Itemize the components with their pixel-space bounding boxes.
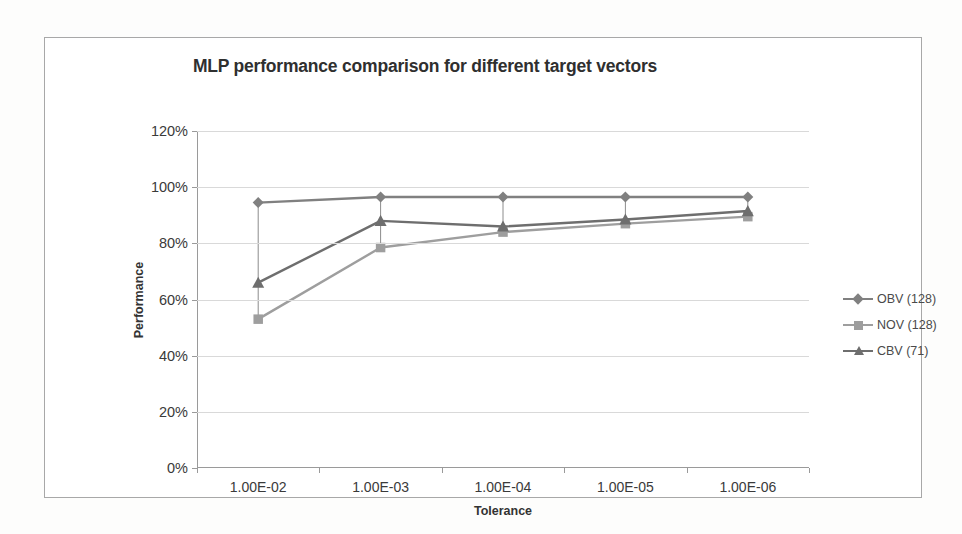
x-axis-tick — [809, 468, 810, 473]
gridline — [197, 300, 809, 301]
y-axis-tick-label: 40% — [159, 348, 188, 364]
gridline — [197, 356, 809, 357]
legend-label: CBV (71) — [877, 344, 928, 358]
legend-item-cbv[interactable]: CBV (71) — [843, 338, 962, 364]
x-axis-tick — [564, 468, 565, 473]
y-axis-tick-label: 120% — [151, 123, 188, 139]
x-axis-tick-label: 1.00E-02 — [230, 479, 287, 495]
legend-label: OBV (128) — [877, 292, 936, 306]
y-axis-tick-label: 80% — [159, 235, 188, 251]
gridline — [197, 131, 809, 132]
x-axis-tick — [319, 468, 320, 473]
plot-container: Performance Tolerance 0%20%40%60%80%100%… — [197, 131, 809, 468]
x-axis-tick-label: 1.00E-03 — [352, 479, 409, 495]
y-axis-tick — [192, 243, 197, 244]
chart-frame: MLP performance comparison for different… — [44, 37, 922, 498]
y-axis-tick — [192, 412, 197, 413]
diamond-marker-icon — [843, 293, 873, 305]
square-marker-icon — [843, 319, 873, 331]
x-axis-tick-label: 1.00E-05 — [597, 479, 654, 495]
y-axis-tick — [192, 187, 197, 188]
gridline — [197, 412, 809, 413]
legend-label: NOV (128) — [877, 318, 937, 332]
y-axis-tick — [192, 300, 197, 301]
gridline — [197, 187, 809, 188]
y-axis-tick-label: 60% — [159, 292, 188, 308]
legend-item-nov[interactable]: NOV (128) — [843, 312, 962, 338]
legend: OBV (128)NOV (128)CBV (71) — [843, 286, 962, 364]
y-axis-tick-label: 100% — [151, 179, 188, 195]
gridline — [197, 243, 809, 244]
x-axis-title: Tolerance — [197, 504, 809, 518]
x-axis-tick-label: 1.00E-06 — [719, 479, 776, 495]
triangle-marker-icon — [843, 345, 873, 357]
y-axis-tick — [192, 356, 197, 357]
chart-title: MLP performance comparison for different… — [45, 56, 805, 77]
legend-item-obv[interactable]: OBV (128) — [843, 286, 962, 312]
y-axis-tick-label: 0% — [167, 460, 188, 476]
y-axis-title: Performance — [132, 261, 146, 337]
x-axis-tick — [442, 468, 443, 473]
x-axis-tick — [197, 468, 198, 473]
x-axis-tick — [687, 468, 688, 473]
x-axis-tick-label: 1.00E-04 — [475, 479, 532, 495]
y-axis-tick-label: 20% — [159, 404, 188, 420]
y-axis-tick — [192, 131, 197, 132]
